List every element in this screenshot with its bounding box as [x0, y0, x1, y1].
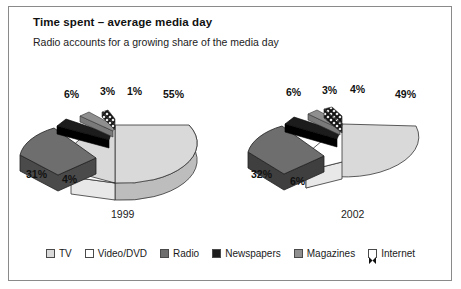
charts-container: 55% 4% 31% 6% 3% 1% 1999 [0, 0, 461, 289]
label-video-1999: 4% [62, 173, 77, 185]
legend-item-magazines[interactable]: Magazines [294, 248, 355, 259]
chart-legend: TV Video/DVD Radio Newspapers Magazines … [0, 248, 461, 259]
legend-item-tv[interactable]: TV [46, 248, 72, 259]
label-tv-1999: 55% [163, 88, 184, 100]
legend-label-radio: Radio [173, 248, 199, 259]
legend-label-magazines: Magazines [307, 248, 355, 259]
legend-label-newspapers: Newspapers [225, 248, 281, 259]
legend-swatch-internet [368, 249, 377, 258]
legend-label-video-dvd: Video/DVD [98, 248, 147, 259]
legend-item-newspapers[interactable]: Newspapers [212, 248, 281, 259]
year-label-1999: 1999 [111, 208, 134, 220]
legend-swatch-newspapers [212, 249, 221, 258]
year-label-2002: 2002 [341, 208, 364, 220]
label-newspapers-1999: 6% [64, 88, 79, 100]
legend-swatch-tv [46, 249, 55, 258]
legend-label-tv: TV [59, 248, 72, 259]
legend-swatch-magazines [294, 249, 303, 258]
legend-label-internet: Internet [381, 248, 415, 259]
label-radio-2002: 32% [251, 168, 272, 180]
label-newspapers-2002: 6% [286, 86, 301, 98]
label-video-2002: 6% [290, 175, 305, 187]
label-internet-1999: 1% [127, 85, 142, 97]
legend-item-video-dvd[interactable]: Video/DVD [85, 248, 147, 259]
legend-swatch-radio [160, 249, 169, 258]
label-magazines-2002: 3% [322, 84, 337, 96]
label-tv-2002: 49% [395, 88, 416, 100]
label-radio-1999: 31% [26, 168, 47, 180]
legend-swatch-video-dvd [85, 249, 94, 258]
label-internet-2002: 4% [350, 83, 365, 95]
label-magazines-1999: 3% [100, 85, 115, 97]
legend-item-internet[interactable]: Internet [368, 248, 415, 259]
legend-item-radio[interactable]: Radio [160, 248, 199, 259]
hatch-icon [369, 257, 376, 264]
